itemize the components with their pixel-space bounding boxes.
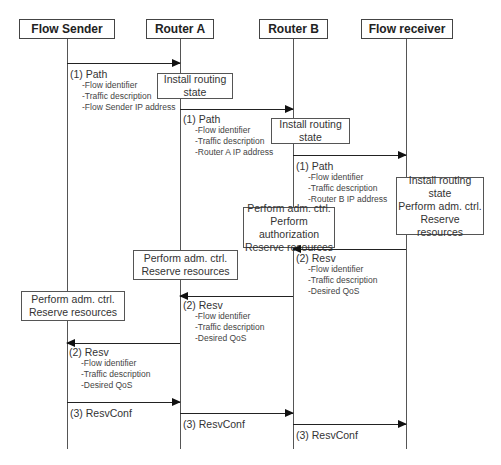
lifeline-flow-receiver	[406, 39, 407, 449]
path-arrow-sender-to-a	[67, 63, 180, 64]
resv-arrow-a-to-sender	[67, 343, 180, 344]
router-b-install-box: Install routingstate	[271, 118, 350, 144]
participant-router-a: Router A	[146, 19, 214, 39]
router-b-admission-box: Perform adm. ctrl.Perform authorizationR…	[243, 207, 335, 248]
resv-message-3: (2) Resv -Flow identifier -Traffic descr…	[69, 346, 150, 391]
resv-message-1: (2) Resv -Flow identifier -Traffic descr…	[296, 252, 377, 297]
path-arrow-b-to-receiver	[293, 155, 406, 156]
resv-message-2: (2) Resv -Flow identifier -Traffic descr…	[183, 299, 264, 344]
router-a-install-box: Install routingstate	[157, 73, 233, 99]
lifeline-flow-sender	[67, 39, 68, 449]
resv-arrow-b-to-a	[180, 296, 293, 297]
path-arrow-a-to-b	[180, 109, 293, 110]
resvconf-message-3: (3) ResvConf	[296, 429, 358, 441]
resvconf-message-1: (3) ResvConf	[70, 407, 132, 419]
participant-router-b: Router B	[259, 19, 328, 39]
path-message-3: (1) Path -Flow identifier -Traffic descr…	[296, 160, 387, 205]
receiver-action-box: Install routing statePerform adm. ctrl.R…	[396, 177, 484, 235]
resvconf-message-2: (3) ResvConf	[183, 418, 245, 430]
router-a-admission-box: Perform adm. ctrl.Reserve resources	[133, 250, 238, 280]
path-message-2: (1) Path -Flow identifier -Traffic descr…	[183, 113, 273, 158]
participant-flow-sender: Flow Sender	[19, 19, 115, 39]
resvconf-arrow-a-to-b	[180, 413, 293, 414]
lifeline-router-a	[180, 39, 181, 449]
participant-flow-receiver: Flow receiver	[361, 19, 453, 39]
sender-admission-box: Perform adm. ctrl.Reserve resources	[21, 291, 125, 321]
resv-arrow-receiver-to-b	[293, 249, 406, 250]
resvconf-arrow-sender-to-a	[67, 402, 180, 403]
resvconf-arrow-b-to-receiver	[293, 424, 406, 425]
